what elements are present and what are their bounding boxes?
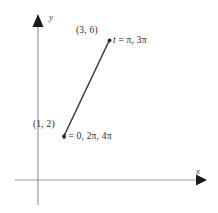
x-axis-label: x (196, 166, 200, 176)
endpoint-dot-upper (108, 39, 112, 43)
plot-canvas (0, 0, 218, 213)
upper-param-values: = π, 3π (116, 35, 147, 45)
y-axis-label: y (49, 12, 53, 22)
lower-point-parameter-label: t = 0, 2π, 4π (63, 131, 112, 141)
y-axis-arrow-icon (33, 14, 44, 27)
upper-point-coordinate-label: (3, 6) (76, 25, 98, 35)
lower-point-coordinate-label: (1, 2) (33, 119, 55, 129)
curve-segment (64, 41, 109, 136)
upper-point-parameter-label: t = π, 3π (113, 35, 147, 45)
lower-param-values: = 0, 2π, 4π (66, 131, 112, 141)
x-axis-arrow-icon (196, 175, 207, 186)
parametric-curve-figure: y x (3, 6) (1, 2) t = π, 3π t = 0, 2π, 4… (0, 0, 218, 213)
